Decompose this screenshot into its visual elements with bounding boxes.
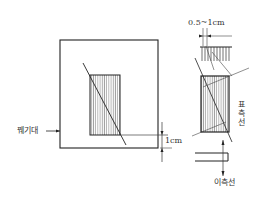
top-range-label: 0.5~1cm — [188, 18, 225, 27]
face-line-label: 표측선 — [236, 100, 245, 127]
margin-label: 1cm — [165, 136, 182, 145]
back-line-label: 이측선 — [214, 178, 235, 187]
diagram-canvas — [0, 0, 264, 198]
pointer-label: 꿰기대 — [17, 126, 38, 135]
left-figure — [46, 40, 172, 162]
